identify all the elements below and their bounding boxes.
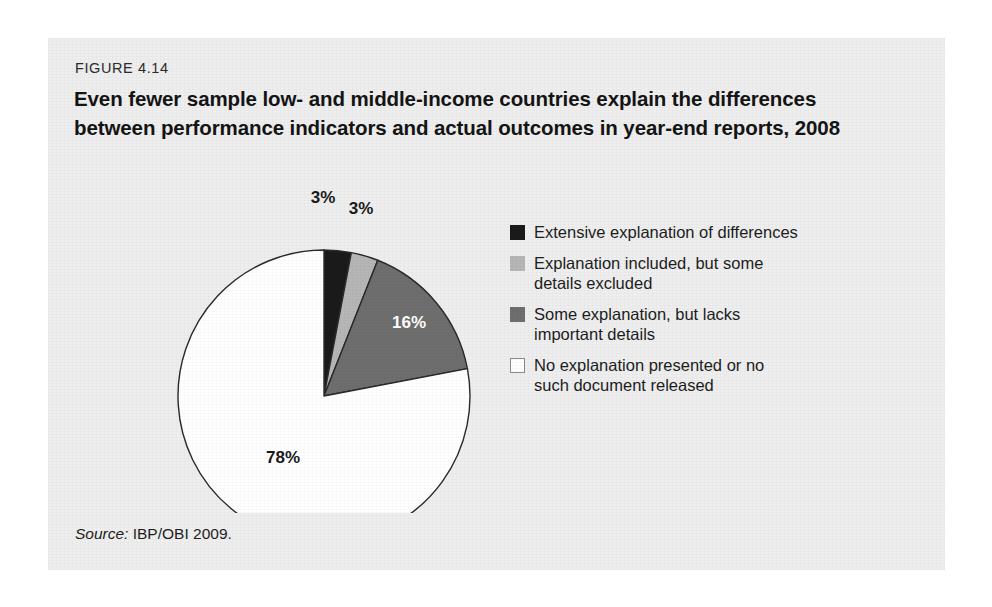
pie-chart-svg: 3% 3% 16% 78%	[128, 173, 528, 513]
legend-swatch-extensive	[510, 225, 525, 240]
pie-label-slice3: 16%	[392, 313, 426, 332]
figure-panel: FIGURE 4.14 Even fewer sample low- and m…	[48, 38, 945, 570]
legend-item-label: Some explanation, but lacks important de…	[534, 304, 740, 344]
legend-item[interactable]: Explanation included, but some details e…	[510, 253, 910, 293]
source-value: IBP/OBI 2009.	[128, 525, 231, 542]
legend-item-label: Extensive explanation of differences	[534, 222, 798, 242]
figure-title: Even fewer sample low- and middle-income…	[74, 84, 894, 142]
legend-item-label: No explanation presented or no such docu…	[534, 355, 764, 395]
legend-item[interactable]: No explanation presented or no such docu…	[510, 355, 910, 395]
legend-swatch-some-details-excluded	[510, 256, 525, 271]
legend-item[interactable]: Some explanation, but lacks important de…	[510, 304, 910, 344]
figure-number: FIGURE 4.14	[75, 60, 169, 76]
chart-legend: Extensive explanation of differencesExpl…	[510, 222, 910, 406]
legend-item-label: Explanation included, but some details e…	[534, 253, 763, 293]
legend-swatch-no-explanation	[510, 358, 525, 373]
source-label: Source:	[75, 525, 128, 542]
pie-chart: 3% 3% 16% 78%	[128, 173, 528, 513]
pie-label-slice1: 3%	[311, 188, 336, 207]
source-note: Source: IBP/OBI 2009.	[75, 525, 232, 543]
legend-item[interactable]: Extensive explanation of differences	[510, 222, 910, 242]
pie-label-slice4: 78%	[266, 448, 300, 467]
pie-slices	[178, 250, 470, 513]
pie-slice[interactable]	[178, 250, 470, 513]
legend-swatch-lacks-important-details	[510, 307, 525, 322]
pie-label-slice2: 3%	[349, 199, 374, 218]
